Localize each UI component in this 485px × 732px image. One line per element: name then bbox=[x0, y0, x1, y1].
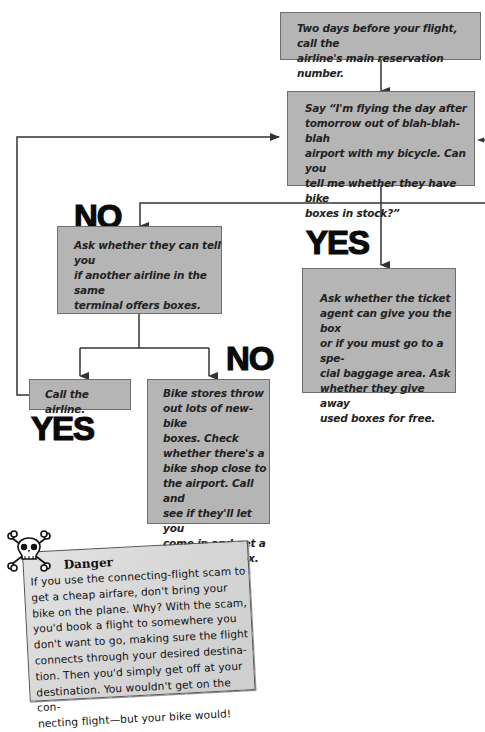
step-text-line: used boxes for free. bbox=[320, 411, 455, 426]
step-ask-ticket-agent: Ask whether the ticket agent can give yo… bbox=[302, 268, 456, 393]
step-text-line: airport with my bicycle. Can you bbox=[305, 146, 474, 176]
step-text-line: Ask whether they can tell you bbox=[74, 238, 221, 268]
step-text-line: cial baggage area. Ask bbox=[320, 366, 455, 381]
step-text-line: tell me whether they have bike bbox=[305, 176, 474, 206]
step-text-line: if another airline in the same bbox=[74, 268, 221, 298]
step-text-line: Ask whether the ticket bbox=[320, 291, 455, 306]
step-text-line: boxes in stock?” bbox=[305, 206, 474, 221]
step-text-line: bike shop close to bbox=[163, 461, 269, 476]
step-text-line: airline's main reservation number. bbox=[297, 51, 480, 81]
step-text-line: out lots of new-bike bbox=[163, 401, 269, 431]
step-text-line: terminal offers boxes. bbox=[74, 298, 221, 313]
step-ask-other-airline: Ask whether they can tell you if another… bbox=[57, 226, 222, 314]
danger-body: If you use the connecting-flight scam to… bbox=[30, 563, 256, 732]
step-text-line: whether they give away bbox=[320, 381, 455, 411]
step-text-line: boxes. Check bbox=[163, 431, 269, 446]
label-yes-first: YES bbox=[306, 226, 369, 259]
step-text-line: Two days before your flight, call the bbox=[297, 21, 480, 51]
danger-note: Danger If you use the connecting-flight … bbox=[22, 540, 256, 702]
step-text-line: agent can give you the box bbox=[320, 306, 455, 336]
step-text-line: whether there's a bbox=[163, 446, 269, 461]
step-text-line: Say “I'm flying the day after bbox=[305, 101, 474, 116]
step-text-line: tomorrow out of blah-blah-blah bbox=[305, 116, 474, 146]
step-text-line: or if you must go to a spe- bbox=[320, 336, 455, 366]
step-text-line: Bike stores throw bbox=[163, 386, 269, 401]
step-ask-bike-boxes: Say “I'm flying the day after tomorrow o… bbox=[287, 91, 475, 186]
skull-crossbones-icon bbox=[6, 530, 52, 572]
step-text-line: the airport. Call and bbox=[163, 476, 269, 506]
step-call-reservation: Two days before your flight, call the ai… bbox=[280, 12, 481, 60]
label-yes-second: YES bbox=[31, 412, 94, 445]
step-call-airline: Call the airline. bbox=[29, 379, 131, 410]
label-no-second: NO bbox=[226, 342, 274, 375]
danger-title: Danger bbox=[63, 555, 113, 572]
step-text-line: see if they'll let you bbox=[163, 506, 269, 536]
step-bike-stores: Bike stores throw out lots of new-bike b… bbox=[147, 379, 270, 524]
